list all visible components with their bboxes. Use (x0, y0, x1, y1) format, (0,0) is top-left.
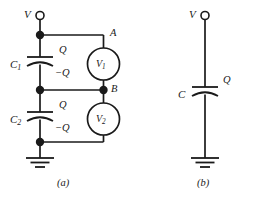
capacitor-c1-label: C1 (10, 59, 21, 72)
panel-a-circuit (26, 12, 120, 168)
voltmeter-v2-label-subscript: 2 (102, 118, 106, 126)
circuit-figure: V C1 Q −Q C2 Q −Q A B V1 V2 (a) V C Q (b… (0, 0, 255, 200)
node-label-b: B (111, 84, 117, 95)
charge-label-c2-bottom: −Q (55, 123, 70, 134)
voltmeter-v1-label-subscript: 1 (102, 63, 106, 71)
voltmeter-v2-label: V2 (96, 114, 106, 126)
charge-label-c-b: Q (223, 75, 231, 86)
terminal-circle-v-a (36, 12, 44, 20)
panel-caption-a: (a) (57, 178, 69, 189)
circuit-diagram-svg (0, 0, 255, 200)
capacitor-c2-label: C2 (10, 114, 21, 127)
charge-label-c2-top: Q (59, 100, 67, 111)
panel-b-circuit (191, 12, 219, 168)
node-label-a: A (110, 28, 116, 39)
panel-caption-b: (b) (197, 178, 209, 189)
terminal-label-v-a: V (24, 9, 31, 20)
charge-label-c1-bottom: −Q (55, 68, 70, 79)
capacitor-c1-label-subscript: 1 (17, 62, 21, 71)
charge-label-c1-top: Q (59, 45, 67, 56)
terminal-label-v-b: V (189, 9, 196, 20)
capacitor-c-label: C (178, 89, 185, 100)
voltmeter-v1-label: V1 (96, 59, 106, 71)
terminal-circle-v-b (201, 12, 209, 20)
capacitor-c2-label-subscript: 2 (17, 117, 21, 126)
